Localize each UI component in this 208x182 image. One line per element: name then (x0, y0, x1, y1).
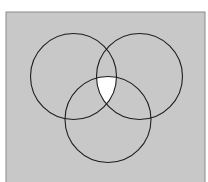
venn-diagram (0, 0, 208, 182)
